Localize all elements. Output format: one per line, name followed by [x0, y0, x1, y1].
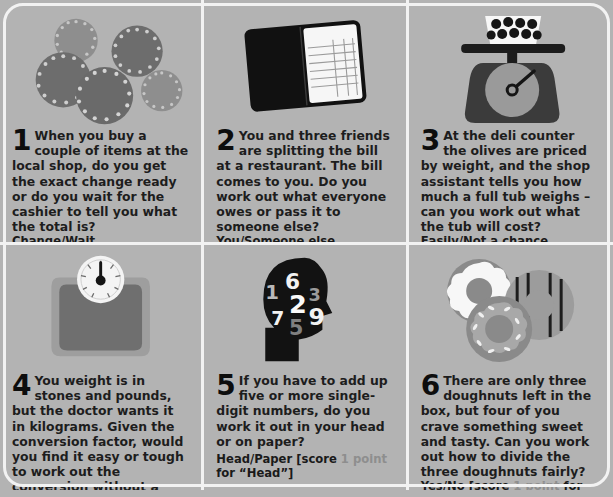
head-digit-7: 7: [271, 308, 284, 329]
answer-options: You/Someone else: [216, 234, 335, 245]
answer-options: Head/Paper: [216, 452, 296, 466]
question-number: 2: [216, 128, 235, 153]
score-point: 1 point: [513, 479, 559, 490]
quiz-panel-5[interactable]: 6 1 2 3 7 9 5 5If you have to add up fiv…: [204, 245, 408, 490]
bill-folder-icon: [216, 8, 393, 126]
question-number: 1: [12, 128, 31, 153]
quiz-panel-2[interactable]: 2You and three friends are splitting the…: [204, 0, 408, 245]
answer-options: Yes/No: [421, 479, 469, 490]
quiz-sheet: 1When you buy a couple of items at the l…: [0, 0, 613, 497]
quiz-panel-3[interactable]: 3At the deli counter the olives are pric…: [409, 0, 613, 245]
coins-icon: [12, 8, 189, 126]
question-text: 5If you have to add up five or more sing…: [216, 373, 393, 449]
score-prefix: [score: [469, 479, 514, 490]
answer-line: Yes/No [score 1 point for “Yes”]: [421, 479, 601, 490]
question-number: 5: [216, 373, 235, 398]
question-text: 4You weight is in stones and pounds, but…: [12, 373, 189, 490]
answer-line: Change/Wait [score 1 point for “Change”]: [12, 234, 189, 245]
score-point: 1 point: [341, 452, 387, 466]
score-prefix: [score: [296, 452, 341, 466]
question-body: You and three friends are splitting the …: [216, 128, 390, 234]
answer-options: Easily/Not a chance: [421, 234, 548, 245]
question-body: There are only three doughnuts left in t…: [421, 373, 591, 479]
quiz-panel-4[interactable]: 4You weight is in stones and pounds, but…: [0, 245, 204, 490]
question-body: If you have to add up five or more singl…: [216, 373, 387, 449]
answer-line: You/Someone else [score 1 point for “You…: [216, 234, 393, 245]
bathroom-scale-icon: [12, 253, 189, 371]
head-digit-2: 2: [289, 289, 307, 319]
question-body: When you buy a couple of items at the lo…: [12, 128, 188, 234]
head-digit-5: 5: [289, 316, 303, 340]
answer-options: Change/Wait: [12, 234, 95, 245]
question-text: 1When you buy a couple of items at the l…: [12, 128, 189, 234]
score-suffix: for “Head”]: [216, 466, 293, 480]
answer-line: Easily/Not a chance [score 1 point for “…: [421, 234, 601, 245]
question-text: 3At the deli counter the olives are pric…: [421, 128, 601, 234]
question-number: 6: [421, 373, 440, 398]
question-body: You weight is in stones and pounds, but …: [12, 373, 184, 490]
quiz-panel-6[interactable]: 6There are only three doughnuts left in …: [409, 245, 613, 490]
quiz-panel-1[interactable]: 1When you buy a couple of items at the l…: [0, 0, 204, 245]
question-body: At the deli counter the olives are price…: [421, 128, 591, 234]
question-number: 4: [12, 373, 31, 398]
answer-line: Head/Paper [score 1 point for “Head”]: [216, 452, 393, 484]
quiz-grid: 1When you buy a couple of items at the l…: [0, 0, 613, 497]
question-text: 2You and three friends are splitting the…: [216, 128, 393, 234]
question-number: 3: [421, 128, 440, 153]
kitchen-scale-icon: [421, 8, 601, 126]
head-numbers-icon: 6 1 2 3 7 9 5: [216, 253, 393, 371]
doughnuts-icon: [421, 253, 601, 371]
question-text: 6There are only three doughnuts left in …: [421, 373, 601, 479]
head-digit-1: 1: [266, 281, 280, 304]
head-digit-9: 9: [309, 303, 325, 331]
